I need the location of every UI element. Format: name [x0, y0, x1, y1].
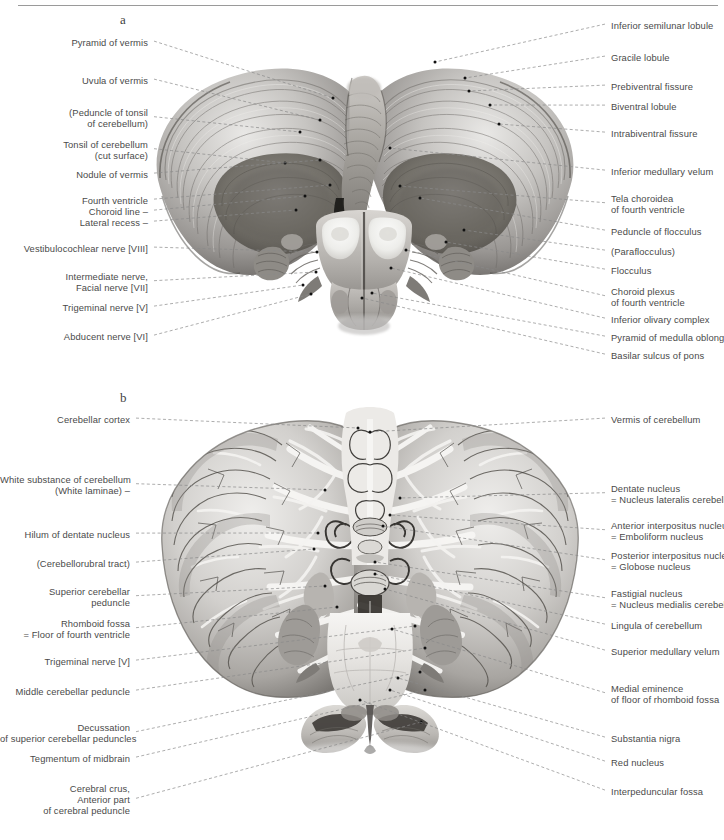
label-choroid-plexus: Choroid plexus of fourth ventricle	[611, 286, 724, 308]
label-decussation-scp: Decussation of superior cerebellar pedun…	[0, 722, 130, 744]
label-interpeduncular-fossa: Interpeduncular fossa	[611, 786, 724, 797]
label-superior-medullary-velum: Superior medullary velum	[611, 646, 724, 657]
label-trigeminal-nerve-a: Trigeminal nerve [V]	[0, 302, 148, 313]
label-fastigial-nucleus: Fastigial nucleus = Nucleus medialis cer…	[611, 588, 724, 610]
label-posterior-interpositus-nucleus: Posterior interpositus nucleus = Globose…	[611, 550, 724, 572]
label-basilar-sulcus-of-pons: Basilar sulcus of pons	[611, 350, 724, 361]
label-trigeminal-nerve-b: Trigeminal nerve [V]	[0, 656, 130, 667]
label-hilum-of-dentate-nucleus: Hilum of dentate nucleus	[0, 529, 130, 540]
illustration-cerebellum-anterior-view	[140, 30, 590, 365]
panel-letter-a: a	[120, 12, 126, 28]
label-cerebellar-cortex: Cerebellar cortex	[0, 414, 130, 425]
page-top-rule	[18, 5, 718, 6]
label-peduncle-of-flocculus: Peduncle of flocculus	[611, 226, 724, 237]
label-paraflocculus: (Paraflocculus)	[611, 246, 724, 257]
label-lateral-recess: Lateral recess –	[0, 217, 148, 228]
label-white-substance: White substance of cerebellum (White lam…	[0, 474, 130, 496]
label-fourth-ventricle: Fourth ventricle	[0, 195, 148, 206]
label-tonsil-of-cerebellum: Tonsil of cerebellum (cut surface)	[0, 139, 148, 161]
panel-letter-b: b	[120, 390, 127, 406]
label-pyramid-of-medulla: Pyramid of medulla oblongata	[611, 332, 724, 343]
label-gracile-lobule: Gracile lobule	[611, 52, 724, 63]
label-peduncle-of-tonsil: (Peduncle of tonsil of cerebellum)	[0, 107, 148, 129]
label-superior-cerebellar-peduncle: Superior cerebellar peduncle	[0, 586, 130, 608]
label-biventral-lobule: Biventral lobule	[611, 101, 724, 112]
label-vermis-of-cerebellum: Vermis of cerebellum	[611, 414, 724, 425]
label-cerebral-crus: Cerebral crus, Anterior part of cerebral…	[0, 783, 130, 817]
label-tegmentum-of-midbrain: Tegmentum of midbrain	[0, 753, 130, 764]
label-cerebellorubral-tract: (Cerebellorubral tract)	[0, 558, 130, 569]
label-red-nucleus: Red nucleus	[611, 757, 724, 768]
label-medial-eminence: Medial eminence of floor of rhomboid fos…	[611, 683, 724, 705]
label-middle-cerebellar-peduncle: Middle cerebellar peduncle	[0, 686, 130, 697]
label-uvula-of-vermis: Uvula of vermis	[0, 75, 148, 86]
label-intrabiventral-fissure: Intrabiventral fissure	[611, 128, 724, 139]
label-tela-choroidea: Tela choroidea of fourth ventricle	[611, 193, 724, 215]
atlas-plate: Pyramid of vermisUvula of vermis(Peduncl…	[0, 0, 724, 840]
label-abducent-nerve: Abducent nerve [VI]	[0, 331, 148, 342]
label-rhomboid-fossa: Rhomboid fossa = Floor of fourth ventric…	[0, 618, 130, 640]
label-inferior-medullary-velum: Inferior medullary velum	[611, 166, 724, 177]
label-anterior-interpositus-nucleus: Anterior interpositus nucleus = Embolifo…	[611, 520, 724, 542]
label-vestibulocochlear-nerve: Vestibulocochlear nerve [VIII]	[0, 243, 148, 254]
label-choroid-line: Choroid line –	[0, 206, 148, 217]
label-inferior-olivary-complex: Inferior olivary complex	[611, 314, 724, 325]
label-inferior-semilunar-lobule: Inferior semilunar lobule	[611, 20, 724, 31]
label-dentate-nucleus: Dentate nucleus = Nucleus lateralis cere…	[611, 483, 724, 505]
illustration-cerebellum-horizontal-section	[150, 405, 590, 805]
label-prebiventral-fissure: Prebiventral fissure	[611, 81, 724, 92]
label-lingula-of-cerebellum: Lingula of cerebellum	[611, 620, 724, 631]
label-substantia-nigra: Substantia nigra	[611, 733, 724, 744]
label-flocculus: Flocculus	[611, 265, 724, 276]
label-pyramid-of-vermis: Pyramid of vermis	[0, 37, 148, 48]
label-nodule-of-vermis: Nodule of vermis	[0, 169, 148, 180]
label-intermediate-facial-nerve: Intermediate nerve, Facial nerve [VII]	[0, 271, 148, 293]
